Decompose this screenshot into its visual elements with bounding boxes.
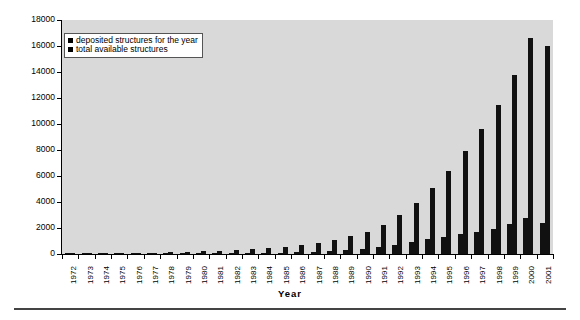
y-axis-tick	[57, 98, 62, 99]
y-axis-tick	[57, 202, 62, 203]
x-axis-tick-label: 1988	[332, 266, 340, 284]
bar-group	[389, 20, 405, 254]
bar	[528, 38, 533, 254]
bar-group	[455, 20, 471, 254]
bar-group	[422, 20, 438, 254]
bar	[381, 225, 386, 254]
x-axis-tick-label: 1986	[299, 266, 307, 284]
bar-group	[258, 20, 274, 254]
x-axis-title: Year	[0, 288, 580, 299]
x-axis-tick	[471, 255, 472, 259]
bar-group	[209, 20, 225, 254]
x-axis-tick	[177, 255, 178, 259]
x-axis-tick	[340, 255, 341, 259]
y-axis-tick	[57, 72, 62, 73]
y-axis-tick-labels: 0200040006000800010000120001400016000180…	[0, 0, 55, 320]
y-axis-tick-label: 6000	[3, 171, 55, 180]
x-axis-tick	[373, 255, 374, 259]
x-axis-tick-label: 1993	[414, 266, 422, 284]
x-axis-tick-label: 1994	[430, 266, 438, 284]
x-axis-tick	[95, 255, 96, 259]
x-axis-tick-label: 1975	[119, 266, 127, 284]
bar	[316, 243, 321, 254]
x-axis-tick	[520, 255, 521, 259]
y-axis-line	[61, 20, 62, 255]
y-axis-tick	[57, 20, 62, 21]
x-axis-tick-label: 2000	[528, 266, 536, 284]
x-axis-tick	[291, 255, 292, 259]
bar-group	[242, 20, 258, 254]
bar-group	[275, 20, 291, 254]
x-axis-tick-label: 1974	[103, 266, 111, 284]
bar-group	[520, 20, 536, 254]
y-axis-tick-label: 14000	[3, 67, 55, 76]
y-axis-tick	[57, 150, 62, 151]
x-axis-tick	[504, 255, 505, 259]
x-axis-tick	[193, 255, 194, 259]
bar-group	[307, 20, 323, 254]
x-axis-tick-label: 1978	[168, 266, 176, 284]
bar-group	[373, 20, 389, 254]
x-axis-tick-label: 1972	[70, 266, 78, 284]
bar	[512, 75, 517, 254]
bar	[545, 46, 550, 254]
bar	[463, 151, 468, 254]
x-axis-tick-label: 1976	[136, 266, 144, 284]
x-axis-tick-label: 1985	[283, 266, 291, 284]
y-axis-tick-label: 4000	[3, 197, 55, 206]
x-axis-tick	[127, 255, 128, 259]
x-axis-tick	[258, 255, 259, 259]
x-axis-tick	[357, 255, 358, 259]
x-axis-tick	[553, 255, 554, 259]
x-axis-tick	[488, 255, 489, 259]
bar-group	[340, 20, 356, 254]
y-axis-tick-label: 2000	[3, 223, 55, 232]
x-axis-tick-label: 1995	[446, 266, 454, 284]
x-axis-tick	[62, 255, 63, 259]
bar-group	[356, 20, 372, 254]
legend-label-total: total available structures	[76, 45, 168, 54]
y-axis-tick	[57, 46, 62, 47]
chart-legend: deposited structures for the year total …	[64, 33, 203, 58]
y-axis-tick	[57, 124, 62, 125]
x-axis-tick	[144, 255, 145, 259]
legend-item-total: total available structures	[68, 45, 198, 54]
y-axis-tick	[57, 176, 62, 177]
bar	[365, 232, 370, 254]
bar	[479, 129, 484, 254]
x-axis-tick-label: 1981	[217, 266, 225, 284]
bar	[496, 105, 501, 254]
bar-group	[406, 20, 422, 254]
x-axis-tick-label: 1987	[316, 266, 324, 284]
x-axis-tick	[324, 255, 325, 259]
x-axis-tick-label: 1996	[463, 266, 471, 284]
bar-group	[487, 20, 503, 254]
x-axis-tick-label: 1980	[201, 266, 209, 284]
x-axis-tick	[308, 255, 309, 259]
x-axis-tick	[160, 255, 161, 259]
x-axis-tick-label: 2001	[545, 266, 553, 284]
bar-group	[471, 20, 487, 254]
x-axis-tick	[389, 255, 390, 259]
x-axis-tick	[455, 255, 456, 259]
x-axis-tick-label: 1991	[381, 266, 389, 284]
x-axis-tick-label: 1977	[152, 266, 160, 284]
x-axis-tick-label: 1997	[479, 266, 487, 284]
x-axis-tick	[537, 255, 538, 259]
x-axis-tick	[111, 255, 112, 259]
x-axis-tick-label: 1982	[234, 266, 242, 284]
bar	[414, 203, 419, 254]
x-axis-tick-label: 1998	[496, 266, 504, 284]
y-axis-tick-label: 0	[3, 249, 55, 258]
x-axis-tick	[226, 255, 227, 259]
x-axis-tick	[275, 255, 276, 259]
x-axis-tick-label: 1973	[87, 266, 95, 284]
x-axis-tick-label: 1992	[397, 266, 405, 284]
y-axis-tick-label: 16000	[3, 41, 55, 50]
bottom-divider	[14, 308, 566, 310]
x-axis-tick	[242, 255, 243, 259]
x-axis-tick-label: 1990	[365, 266, 373, 284]
bar-group	[226, 20, 242, 254]
x-axis-tick	[422, 255, 423, 259]
bar-group	[536, 20, 552, 254]
